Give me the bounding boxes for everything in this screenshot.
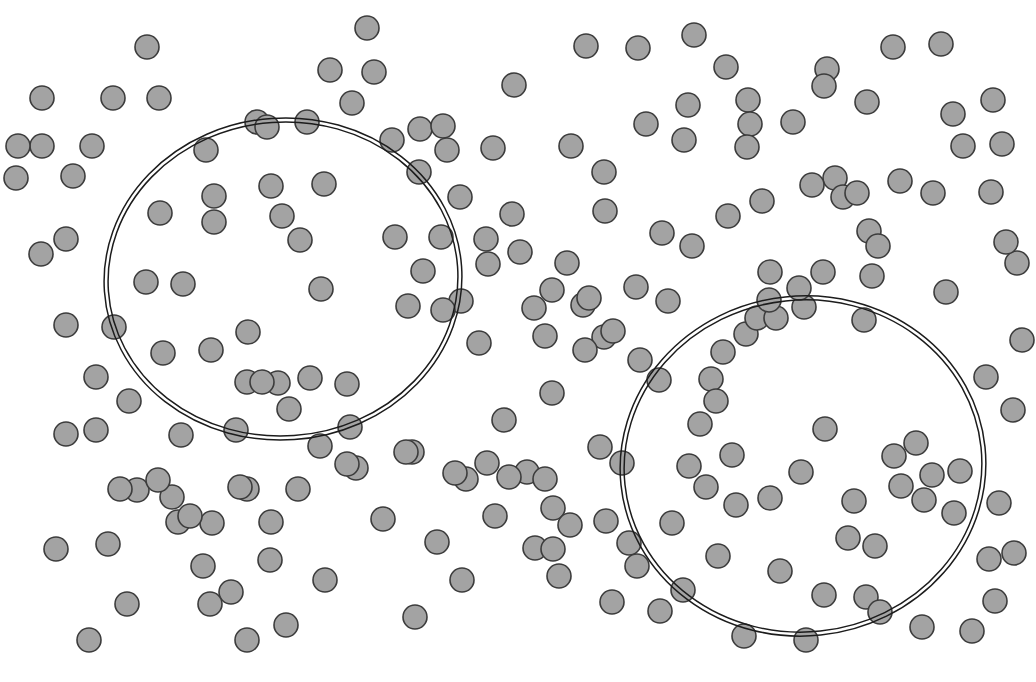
scatter-point [425,530,449,554]
scatter-point [910,615,934,639]
scatter-point [312,172,336,196]
scatter-point [30,134,54,158]
scatter-point [199,338,223,362]
scatter-point [508,240,532,264]
scatter-point [845,181,869,205]
scatter-point [750,189,774,213]
scatter-point [672,128,696,152]
scatter-point [951,134,975,158]
scatter-point [200,511,224,535]
scatter-plot [0,0,1036,682]
scatter-point [135,35,159,59]
scatter-point [680,234,704,258]
scatter-point [502,73,526,97]
scatter-point [912,488,936,512]
scatter-point [758,486,782,510]
scatter-point [812,74,836,98]
scatter-point [61,164,85,188]
scatter-point [522,296,546,320]
scatter-point [628,348,652,372]
scatter-point [600,590,624,614]
scatter-point [888,169,912,193]
scatter-point [624,275,648,299]
scatter-point [882,444,906,468]
scatter-point [318,58,342,82]
scatter-point [288,228,312,252]
scatter-point [974,365,998,389]
scatter-point [724,493,748,517]
scatter-point [573,338,597,362]
scatter-point [258,548,282,572]
scatter-point [594,509,618,533]
scatter-point [147,86,171,110]
scatter-point [408,117,432,141]
scatter-point [688,412,712,436]
scatter-point [699,367,723,391]
scatter-point [54,227,78,251]
scatter-point [298,366,322,390]
scatter-point [101,86,125,110]
scatter-point [219,580,243,604]
scatter-point [811,260,835,284]
scatter-point [881,35,905,59]
scatter-point [610,451,634,475]
scatter-point [476,252,500,276]
scatter-point [371,507,395,531]
scatter-point [601,319,625,343]
scatter-point [920,463,944,487]
scatter-point [541,537,565,561]
scatter-point [738,112,762,136]
scatter-point [411,259,435,283]
scatter-point [942,501,966,525]
scatter-canvas [0,0,1036,682]
scatter-point [171,272,195,296]
scatter-point [648,599,672,623]
scatter-point [855,90,879,114]
scatter-point [474,227,498,251]
scatter-point [270,204,294,228]
scatter-point [842,489,866,513]
scatter-point [259,174,283,198]
scatter-point [1010,328,1034,352]
scatter-point [403,605,427,629]
scatter-point [921,181,945,205]
scatter-point [29,242,53,266]
scatter-point [934,280,958,304]
scatter-point [682,23,706,47]
scatter-point [151,341,175,365]
scatter-point [236,320,260,344]
scatter-point [443,461,467,485]
scatter-point [383,225,407,249]
scatter-point [941,102,965,126]
scatter-point [960,619,984,643]
scatter-point [202,184,226,208]
scatter-point [617,531,641,555]
scatter-point [540,381,564,405]
scatter-point [987,491,1011,515]
scatter-point [768,559,792,583]
scatter-point [660,511,684,535]
scatter-point [694,475,718,499]
scatter-point [394,440,418,464]
scatter-point [1005,251,1029,275]
scatter-point [983,589,1007,613]
scatter-point [836,526,860,550]
scatter-point [309,277,333,301]
scatter-point [497,465,521,489]
scatter-point [148,201,172,225]
scatter-point [758,260,782,284]
scatter-point [711,340,735,364]
scatter-point [335,372,359,396]
scatter-point [559,134,583,158]
scatter-point [904,431,928,455]
scatter-point [860,264,884,288]
scatter-point [593,199,617,223]
scatter-point [626,36,650,60]
scatter-point [990,132,1014,156]
scatter-point [977,547,1001,571]
scatter-point [714,55,738,79]
scatter-point [235,628,259,652]
scatter-point [981,88,1005,112]
scatter-point [77,628,101,652]
scatter-point [117,389,141,413]
